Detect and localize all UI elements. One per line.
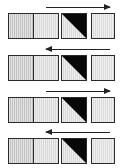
arrow-right-icon — [46, 4, 110, 11]
arrow-right-icon — [46, 88, 110, 95]
arrow-head — [104, 88, 111, 94]
arrow-left-icon — [46, 129, 110, 136]
cell-left — [9, 56, 34, 80]
pair-block — [8, 97, 59, 123]
arrow-head — [45, 46, 52, 52]
pair-block — [8, 138, 59, 164]
diagram-row — [0, 42, 123, 84]
diagram-row — [0, 84, 123, 126]
single-cell — [91, 97, 115, 123]
diagram-row — [0, 125, 123, 167]
split-cell-black-triangle — [61, 138, 87, 164]
split-cell — [61, 97, 87, 123]
arrow-left-icon — [46, 46, 110, 53]
arrow-head — [104, 4, 111, 10]
diagram-figure — [0, 0, 123, 168]
arrow-head — [45, 129, 52, 135]
arrow-shaft — [46, 132, 110, 133]
cell-left — [9, 139, 34, 163]
single-cell — [91, 138, 115, 164]
split-cell — [61, 138, 87, 164]
single-cell — [91, 55, 115, 81]
cell-right — [34, 14, 59, 38]
arrow-shaft — [46, 49, 110, 50]
cell-right — [34, 98, 59, 122]
split-cell — [61, 55, 87, 81]
split-cell-black-triangle — [61, 55, 87, 81]
split-cell — [61, 13, 87, 39]
diagram-row — [0, 0, 123, 42]
cell-right — [34, 56, 59, 80]
split-cell-black-triangle — [61, 97, 87, 123]
single-cell — [91, 13, 115, 39]
cell-right — [34, 139, 59, 163]
pair-block — [8, 13, 59, 39]
cell-left — [9, 14, 34, 38]
split-cell-black-triangle — [61, 13, 87, 39]
arrow-shaft — [46, 91, 110, 92]
pair-block — [8, 55, 59, 81]
cell-left — [9, 98, 34, 122]
arrow-shaft — [46, 7, 110, 8]
